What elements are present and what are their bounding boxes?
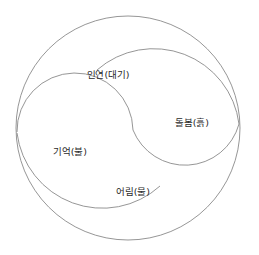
label-fire: 기억(불) bbox=[53, 147, 87, 157]
diagram-canvas bbox=[0, 0, 259, 255]
label-earth: 돌봄(흙) bbox=[175, 118, 209, 128]
label-air: 인연(대기) bbox=[87, 70, 130, 80]
spiral-arc-upper-large bbox=[17, 73, 133, 132]
label-water: 어림(물) bbox=[116, 187, 150, 197]
spiral-element-diagram: 인연(대기) 돌봄(흙) 기억(불) 어림(물) bbox=[0, 0, 259, 255]
spiral-arc-lower-large bbox=[133, 124, 239, 165]
spiral-arc-earth-inner bbox=[97, 49, 239, 124]
